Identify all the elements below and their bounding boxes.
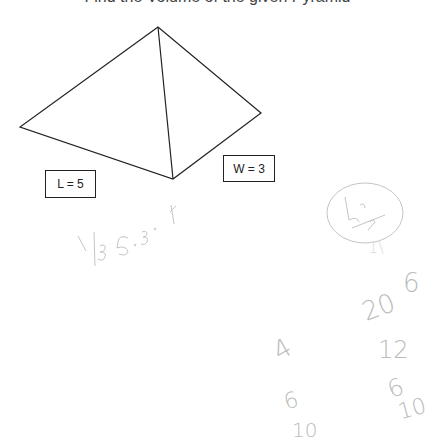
length-label: L = 5 [45,170,96,198]
handwritten-number: 10 [292,418,317,441]
pyramid-center-edge [158,27,173,179]
handwriting-ink [78,183,403,266]
handwritten-number: 6 [403,268,420,298]
width-label: W = 3 [223,155,275,182]
handwritten-number: 12 [378,336,409,364]
handwritten-number: 1\ [368,238,384,257]
